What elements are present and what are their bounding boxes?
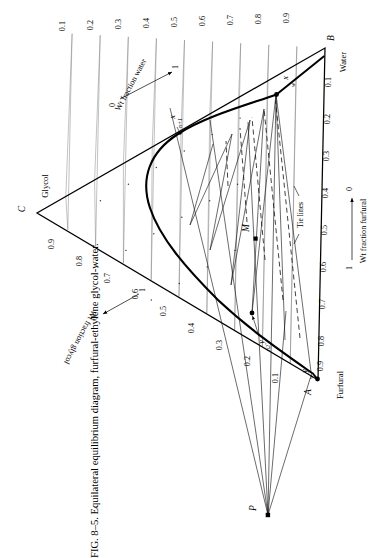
axis-title-water: Wt fraction water 0 1 xyxy=(108,57,180,112)
tick-glycol-0.4: 0.4 xyxy=(187,323,196,333)
figure-caption-text: FIG. 8–5. Equilateral equilibrium diagra… xyxy=(89,243,100,558)
tick-furfural-0.8: 0.8 xyxy=(317,336,326,346)
point-xn1-marker xyxy=(178,131,181,134)
point-label-yn2: y n2 xyxy=(253,316,272,351)
axis-furfural-start: 0 xyxy=(345,187,354,191)
tick-water-0.6: 0.6 xyxy=(198,16,207,26)
grid-nodes xyxy=(97,117,241,300)
point-m-marker xyxy=(254,237,258,241)
tie-lines-annotation: Tie lines xyxy=(294,186,305,244)
point-label-p: P xyxy=(248,505,258,512)
axis-title-furfural-text: Wt fraction furfural xyxy=(359,198,368,263)
point-xw-marker xyxy=(274,92,279,97)
tick-water-0.3: 0.3 xyxy=(114,19,123,29)
tick-furfural-0.9: 0.9 xyxy=(316,361,325,371)
tick-water-0.7: 0.7 xyxy=(226,15,235,25)
axis-glycol-arrow xyxy=(103,294,139,314)
tick-glycol-0.2: 0.2 xyxy=(243,356,252,366)
tick-glycol-0.7: 0.7 xyxy=(103,273,112,283)
vertex-label-b: B xyxy=(326,35,336,41)
tick-furfural-0.7: 0.7 xyxy=(318,299,327,309)
axis-water-end: 1 xyxy=(171,65,180,69)
tick-water-0.9: 0.9 xyxy=(282,13,291,23)
point-label-yn2-text: y xyxy=(257,340,266,345)
point-label-xn1-sub: n+1 xyxy=(177,118,183,128)
axis-glycol-end: 1 xyxy=(138,288,147,292)
tick-furfural-0.6: 0.6 xyxy=(319,262,328,272)
point-label-yw-text: y xyxy=(300,369,309,374)
tie-lines-label: Tie lines xyxy=(296,202,305,228)
axis-furfural-end: 1 xyxy=(345,266,354,270)
point-yn2-marker xyxy=(250,311,255,316)
tick-glycol-0.5: 0.5 xyxy=(159,306,168,316)
axis-title-water-text: Wt fraction water xyxy=(113,57,148,112)
tick-furfural-0.2: 0.2 xyxy=(323,114,332,124)
point-label-m: M xyxy=(241,223,251,233)
tick-water-0.2: 0.2 xyxy=(86,20,95,30)
tick-water-0.5: 0.5 xyxy=(170,17,179,27)
tick-furfural-0.5: 0.5 xyxy=(320,225,329,235)
point-label-xn1: x n+1 xyxy=(168,115,183,132)
component-label-water: Water xyxy=(338,52,348,72)
point-label-yw-sub: w xyxy=(308,375,314,379)
vertex-label-c: C xyxy=(17,205,27,212)
tick-furfural-0.3: 0.3 xyxy=(322,151,331,161)
component-label-glycol: Glycol xyxy=(40,174,50,198)
labeled-point-markers xyxy=(178,92,320,517)
point-label-xw-text: x xyxy=(281,76,290,81)
tick-furfural-0.4: 0.4 xyxy=(321,188,330,198)
tick-glycol-0.1: 0.1 xyxy=(271,373,280,383)
tick-water-0.1: 0.1 xyxy=(58,21,67,31)
point-label-xn1-text: x xyxy=(168,115,177,120)
figure-caption: FIG. 8–5. Equilateral equilibrium diagra… xyxy=(84,268,102,558)
tick-glycol-0.9: 0.9 xyxy=(47,239,56,249)
vertex-label-a: A xyxy=(303,389,313,396)
axis-title-furfural: Wt fraction furfural 0 1 xyxy=(345,187,368,270)
tick-water-0.4: 0.4 xyxy=(142,18,151,28)
tick-water-0.8: 0.8 xyxy=(254,14,263,24)
tick-labels-glycol-axis: 0.9 0.8 0.7 0.6 0.5 0.4 0.3 0.2 0.1 xyxy=(47,239,280,383)
point-label-xw-sub: w xyxy=(290,83,296,87)
point-label-yn2-sub: n2 xyxy=(265,345,271,351)
component-label-furfural: Furfural xyxy=(335,370,345,399)
point-p-marker xyxy=(266,513,270,517)
tick-furfural-0.1: 0.1 xyxy=(324,77,333,87)
tick-labels-water-axis: 0.1 0.2 0.3 0.4 0.5 0.6 0.7 0.8 0.9 xyxy=(58,13,291,31)
tick-glycol-0.8: 0.8 xyxy=(75,256,84,266)
tick-glycol-0.3: 0.3 xyxy=(215,340,224,350)
axis-water-start: 0 xyxy=(108,103,117,107)
point-yw-marker xyxy=(315,377,320,382)
